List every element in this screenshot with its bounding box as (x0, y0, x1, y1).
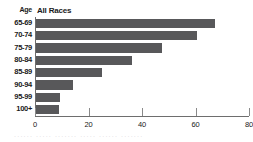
bar-category-label: 75-79 (0, 42, 32, 54)
bar (36, 80, 73, 90)
bar-category-label: 95-99 (0, 91, 32, 103)
x-axis-tick (142, 108, 143, 116)
bar-category-label: 65-69 (0, 17, 32, 29)
bar-category-label: 90-94 (0, 79, 32, 91)
bar-row: 90-94 (0, 79, 253, 91)
x-axis-tick-label: 80 (245, 120, 253, 129)
x-axis-tick (35, 108, 36, 116)
bar-category-label: 85-89 (0, 66, 32, 78)
footer-partial-text: ······ ····· ······· ····· ······ ······… (14, 133, 242, 140)
bar-row: 100+ (0, 103, 253, 115)
bar (36, 56, 132, 66)
x-axis-tick (89, 108, 90, 116)
bar-row: 95-99 (0, 91, 253, 103)
bar-row: 70-74 (0, 29, 253, 41)
x-axis-tick (196, 108, 197, 116)
x-axis-tick-label: 0 (33, 120, 37, 129)
bar (36, 105, 59, 115)
category-header-label: Age (0, 6, 32, 14)
bar-row: 65-69 (0, 17, 253, 29)
bar-row: 80-84 (0, 54, 253, 66)
bar-category-label: 70-74 (0, 29, 32, 41)
bar-row: 85-89 (0, 66, 253, 78)
x-axis-tick-label: 20 (85, 120, 93, 129)
x-axis-tick (249, 108, 250, 116)
bar (36, 19, 215, 29)
bar (36, 31, 197, 41)
bar (36, 93, 60, 103)
bar-category-label: 100+ (0, 103, 32, 115)
bar-category-label: 80-84 (0, 54, 32, 66)
bar-row: 75-79 (0, 42, 253, 54)
bar (36, 43, 162, 53)
x-axis-line (35, 116, 249, 117)
x-axis-tick-label: 60 (192, 120, 200, 129)
x-axis-tick-label: 40 (138, 120, 146, 129)
series-header-label: All Races (37, 6, 71, 15)
bar-chart: Age All Races 65-6970-7475-7980-8485-899… (0, 0, 253, 142)
bar (36, 68, 102, 78)
